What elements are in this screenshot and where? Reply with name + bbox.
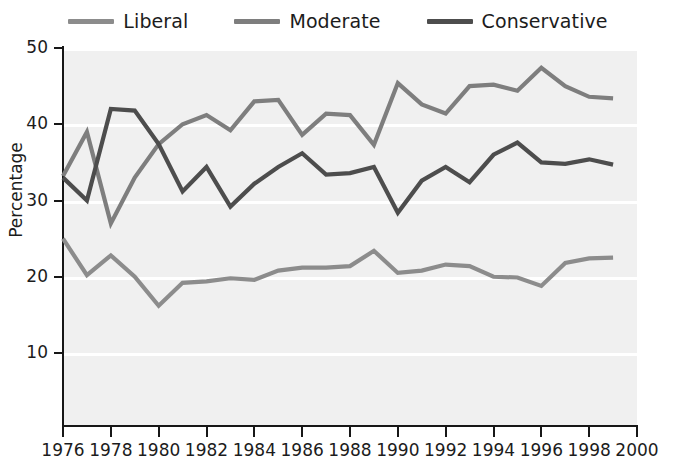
chart-root: Liberal Moderate Conservative 1020304050… xyxy=(0,0,676,476)
series-layer xyxy=(0,0,676,476)
series-line-moderate xyxy=(63,68,613,224)
series-line-liberal xyxy=(63,239,613,306)
